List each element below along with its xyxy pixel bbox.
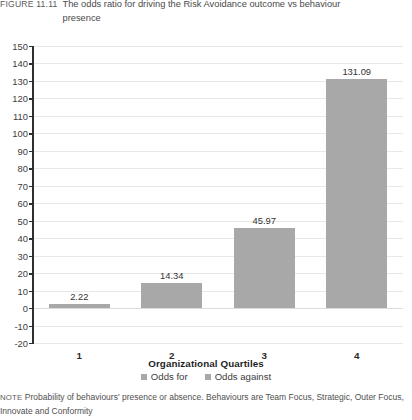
plot-area: [33, 46, 403, 343]
gridline: [33, 63, 403, 64]
bar: [326, 79, 387, 308]
y-axis-tick-label: 140: [0, 58, 28, 69]
y-axis-tick-mark: [29, 186, 34, 187]
y-axis-tick-mark: [29, 168, 34, 169]
y-axis-tick-mark: [29, 238, 34, 239]
legend-item[interactable]: Odds for: [141, 371, 188, 382]
bar: [234, 228, 295, 308]
y-axis-tick-label: 100: [0, 128, 28, 139]
bar-value-label: 131.09: [342, 66, 371, 77]
y-axis-tick-mark: [29, 133, 34, 134]
bar-value-label: 45.97: [253, 215, 276, 226]
y-axis-tick-mark: [29, 98, 34, 99]
y-axis-tick-label: 40: [0, 233, 28, 244]
y-axis-tick-mark: [29, 203, 34, 204]
y-axis-tick-label: -20: [0, 338, 28, 349]
y-axis-tick-label: 90: [0, 145, 28, 156]
y-axis-tick-mark: [29, 256, 34, 257]
x-axis-title: Organizational Quartiles: [0, 358, 412, 369]
chart-legend: Odds forOdds against: [0, 371, 412, 382]
y-axis-tick-label: 20: [0, 268, 28, 279]
y-axis-tick-mark: [29, 221, 34, 222]
y-axis-tick-mark: [29, 81, 34, 82]
y-axis-tick-mark: [29, 291, 34, 292]
bar-chart: 1501401301201101009080706050403020100-10…: [0, 40, 412, 352]
legend-swatch-icon: [141, 374, 147, 380]
y-axis-tick-label: 10: [0, 285, 28, 296]
legend-label: Odds for: [151, 371, 188, 382]
y-axis-tick-label: 30: [0, 250, 28, 261]
note-label: NOTE: [0, 393, 22, 402]
gridline: [33, 343, 403, 344]
legend-item[interactable]: Odds against: [205, 371, 272, 382]
figure-caption: FIGURE 11.11The odds ratio for driving t…: [0, 0, 412, 25]
legend-swatch-icon: [205, 374, 211, 380]
figure-note: NOTE Probability of behaviours' presence…: [0, 391, 412, 417]
gridline: [33, 326, 403, 327]
y-axis-tick-mark: [29, 343, 34, 344]
y-axis-tick-label: 80: [0, 163, 28, 174]
y-axis-tick-label: 50: [0, 215, 28, 226]
bar-value-label: 14.34: [160, 270, 183, 281]
y-axis-tick-mark: [29, 151, 34, 152]
y-axis-tick-label: 150: [0, 41, 28, 52]
y-axis-tick-label: 60: [0, 198, 28, 209]
y-axis-tick-mark: [29, 326, 34, 327]
y-axis-tick-label: 0: [0, 303, 28, 314]
y-axis-tick-mark: [29, 46, 34, 47]
y-axis-line: [32, 46, 34, 343]
legend-label: Odds against: [215, 371, 272, 382]
figure-title: The odds ratio for driving the Risk Avoi…: [62, 0, 380, 25]
y-axis-tick-label: 130: [0, 75, 28, 86]
y-axis-tick-label: 110: [0, 110, 28, 121]
gridline: [33, 46, 403, 47]
y-axis-tick-label: 120: [0, 93, 28, 104]
y-axis-tick-label: 70: [0, 180, 28, 191]
y-axis-tick-label: -10: [0, 320, 28, 331]
bar: [141, 283, 202, 308]
note-text: Probability of behaviours' presence or a…: [0, 392, 404, 416]
bar: [49, 304, 110, 308]
bar-value-label: 2.22: [70, 291, 88, 302]
y-axis-tick-mark: [29, 308, 34, 309]
y-axis-tick-mark: [29, 116, 34, 117]
y-axis-tick-mark: [29, 273, 34, 274]
y-axis-tick-mark: [29, 63, 34, 64]
gridline: [33, 308, 403, 309]
figure-number: FIGURE 11.11: [0, 0, 57, 9]
